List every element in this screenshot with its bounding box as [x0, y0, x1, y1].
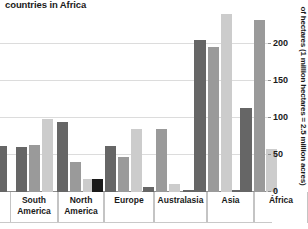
category-cell-asia: Asia	[207, 192, 254, 223]
category-cell-áfrica: África	[254, 192, 308, 223]
bar	[29, 145, 40, 192]
category-label: África	[269, 195, 293, 206]
category-cell-south-america: South America	[10, 192, 58, 223]
bar	[92, 179, 103, 192]
category-label: South America	[17, 195, 51, 216]
y-tick-label: 50	[273, 150, 283, 159]
category-label: North America	[64, 195, 98, 216]
category-label: Europe	[114, 195, 143, 206]
bar	[0, 146, 7, 192]
bars-group	[0, 0, 268, 192]
bar	[70, 162, 81, 192]
axis-bottom-rule	[0, 222, 272, 223]
y-tick-label: 200	[273, 39, 288, 48]
category-cell-europe: Europe	[104, 192, 154, 223]
category-cell-australasia: Australasia	[154, 192, 207, 223]
category-cell-north-america: North America	[58, 192, 104, 223]
y-tick-label: 150	[273, 76, 288, 85]
plot-area	[0, 0, 268, 192]
bar	[240, 108, 252, 192]
y-tick-mark	[268, 80, 271, 81]
bar	[118, 157, 129, 192]
y-tick-mark	[268, 117, 271, 118]
y-tick-mark	[268, 43, 271, 44]
bar	[131, 129, 142, 192]
bar	[221, 14, 232, 192]
y-axis-title: of hectares (1 million hectares = 2.5 mi…	[297, 0, 308, 192]
bar	[208, 47, 219, 192]
bar	[194, 40, 206, 192]
bar	[57, 122, 68, 192]
y-tick-label: 100	[273, 113, 288, 122]
y-axis: 050100150200 of hectares (1 million hect…	[268, 0, 308, 192]
chart-root: countries in Africa 050100150200 of hect…	[0, 0, 308, 229]
bar	[169, 184, 180, 192]
bar	[105, 146, 116, 192]
category-axis: South AmericaNorth AmericaEuropeAustrala…	[0, 192, 268, 223]
bar	[42, 119, 53, 192]
bar	[16, 147, 27, 192]
bar	[254, 20, 265, 192]
category-label: Australasia	[158, 195, 204, 206]
category-label: Asia	[222, 195, 240, 206]
y-axis-title-text: of hectares (1 million hectares = 2.5 mi…	[299, 7, 308, 186]
y-tick-mark	[268, 154, 271, 155]
bar	[156, 129, 167, 192]
